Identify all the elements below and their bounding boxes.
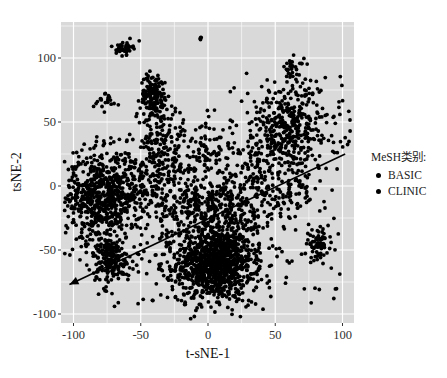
legend-label-clinic: CLINIC bbox=[388, 183, 426, 199]
x-tick-label: 50 bbox=[269, 328, 282, 342]
x-tick-label: -100 bbox=[62, 328, 85, 342]
y-tick-label: -100 bbox=[33, 307, 56, 321]
legend-item-clinic: CLINIC bbox=[371, 183, 426, 199]
x-tick-label: 0 bbox=[205, 328, 211, 342]
y-axis-ticks: -100-50050100 bbox=[33, 51, 61, 321]
legend-title: MeSH类别: bbox=[371, 149, 426, 165]
x-axis-ticks: -100-50050100 bbox=[62, 323, 352, 342]
legend-dot-icon bbox=[376, 173, 381, 178]
legend-label-basic: BASIC bbox=[388, 167, 422, 183]
legend-item-basic: BASIC bbox=[371, 167, 426, 183]
x-tick-label: -50 bbox=[132, 328, 149, 342]
y-tick-label: 100 bbox=[37, 51, 56, 65]
x-tick-label: 100 bbox=[333, 328, 352, 342]
y-tick-label: 50 bbox=[44, 115, 57, 129]
y-tick-label: -50 bbox=[39, 243, 56, 257]
x-axis-title: t-sNE-1 bbox=[186, 346, 230, 361]
legend-dot-icon bbox=[376, 189, 381, 194]
y-axis-title: tsNE-2 bbox=[9, 152, 24, 192]
y-tick-label: 0 bbox=[50, 179, 56, 193]
legend: MeSH类别: BASIC CLINIC bbox=[371, 149, 426, 199]
